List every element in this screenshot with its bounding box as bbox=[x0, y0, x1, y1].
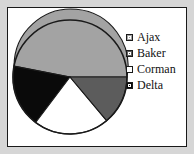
legend-item-corman[interactable]: Corman bbox=[126, 62, 188, 77]
legend-swatch-ajax bbox=[126, 34, 133, 41]
legend-label-baker: Baker bbox=[137, 47, 166, 60]
legend-swatch-baker bbox=[126, 50, 133, 57]
pie-svg bbox=[8, 8, 132, 146]
legend-label-delta: Delta bbox=[137, 79, 163, 92]
legend: Ajax Baker Corman Delta bbox=[126, 30, 188, 94]
legend-swatch-delta bbox=[126, 82, 133, 89]
legend-label-ajax: Ajax bbox=[137, 31, 160, 44]
legend-item-ajax[interactable]: Ajax bbox=[126, 30, 188, 45]
pie-chart bbox=[8, 8, 132, 146]
figure-frame: Ajax Baker Corman Delta bbox=[7, 7, 187, 147]
legend-item-baker[interactable]: Baker bbox=[126, 46, 188, 61]
legend-swatch-corman bbox=[126, 66, 133, 73]
legend-label-corman: Corman bbox=[137, 63, 176, 76]
legend-item-delta[interactable]: Delta bbox=[126, 78, 188, 93]
